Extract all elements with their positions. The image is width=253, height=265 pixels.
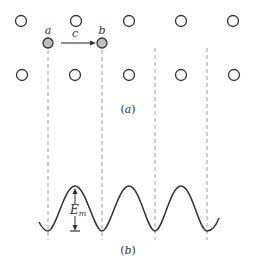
potential-energy-curve (39, 186, 219, 231)
interstitial-site-a (43, 38, 53, 48)
jump-arrow-icon (61, 41, 96, 46)
lattice-site (124, 70, 135, 81)
lattice-site (71, 16, 82, 27)
lattice-site (229, 70, 240, 81)
diffusion-diagram: a b c (a) Em (b) (0, 0, 253, 265)
caption-a: (a) (120, 103, 135, 116)
lattice-bottom-row (17, 70, 240, 81)
interstitial-site-b (97, 38, 107, 48)
lattice-site (17, 70, 28, 81)
lattice-site (16, 16, 27, 27)
site-label-b: b (98, 24, 105, 37)
lattice-site (176, 70, 187, 81)
jump-label-c: c (72, 27, 78, 40)
energy-barrier-label: Em (69, 203, 87, 218)
lattice-site (228, 16, 239, 27)
lattice-site (124, 16, 135, 27)
lattice-site (176, 16, 187, 27)
caption-b: (b) (120, 244, 136, 257)
lattice-site (70, 70, 81, 81)
site-label-a: a (45, 24, 52, 37)
